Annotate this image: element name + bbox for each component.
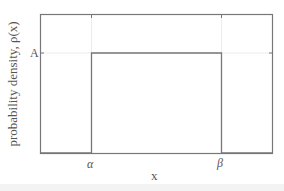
bottom-band — [0, 184, 284, 191]
x-tick-label-beta: β — [217, 156, 223, 171]
uniform-distribution-chart: probability density, ρ(x) A α β x — [0, 0, 284, 191]
y-tick-label-A: A — [30, 46, 39, 61]
x-tick-label-alpha: α — [87, 157, 93, 172]
y-axis-label: probability density, ρ(x) — [5, 21, 21, 146]
x-axis-label: x — [151, 168, 158, 184]
chart-canvas — [0, 0, 284, 191]
axes-frame — [41, 15, 273, 154]
density-curve — [40, 53, 273, 153]
